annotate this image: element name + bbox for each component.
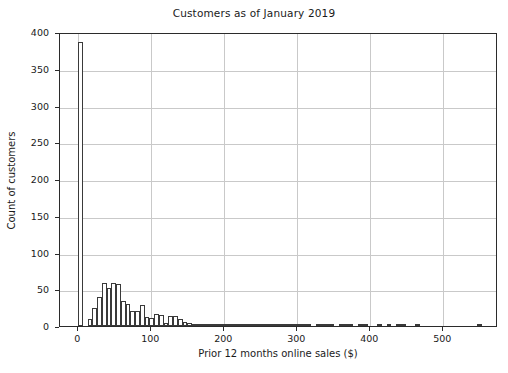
x-axis-tick-mark	[77, 327, 78, 331]
x-axis-tick-mark	[296, 327, 297, 331]
histogram-bar	[78, 42, 83, 326]
gridline-horizontal	[60, 255, 496, 256]
gridline-vertical	[370, 34, 371, 326]
y-axis-tick-label: 400	[0, 28, 49, 38]
y-axis-tick-label: 100	[0, 249, 49, 259]
histogram-bar	[363, 324, 368, 326]
gridline-vertical	[151, 34, 152, 326]
histogram-bar	[349, 324, 354, 326]
x-axis-tick-mark	[369, 327, 370, 331]
x-axis-tick-label: 200	[203, 334, 243, 344]
y-axis-tick-label: 250	[0, 138, 49, 148]
x-axis-tick-mark	[223, 327, 224, 331]
histogram-bar	[330, 324, 335, 326]
histogram-bar	[401, 324, 406, 326]
gridline-horizontal	[60, 181, 496, 182]
y-axis-tick-label: 150	[0, 212, 49, 222]
x-axis-label: Prior 12 months online sales ($)	[59, 348, 497, 359]
y-axis-tick-label: 50	[0, 285, 49, 295]
chart-figure: Customers as of January 2019 Count of cu…	[0, 0, 508, 373]
y-axis-tick-label: 350	[0, 65, 49, 75]
x-axis-tick-label: 400	[349, 334, 389, 344]
x-axis-tick-mark	[150, 327, 151, 331]
gridline-horizontal	[60, 71, 496, 72]
histogram-bar	[415, 324, 420, 326]
y-axis-tick-label: 0	[0, 322, 49, 332]
chart-title: Customers as of January 2019	[0, 7, 508, 19]
histogram-bar	[377, 324, 382, 326]
x-axis-tick-label: 500	[422, 334, 462, 344]
y-axis-tick-label: 300	[0, 102, 49, 112]
histogram-bar	[477, 324, 482, 326]
plot-area	[59, 33, 497, 327]
gridline-horizontal	[60, 291, 496, 292]
gridline-horizontal	[60, 218, 496, 219]
gridline-vertical	[297, 34, 298, 326]
gridline-vertical	[443, 34, 444, 326]
x-axis-tick-label: 300	[276, 334, 316, 344]
y-axis-tick-label: 200	[0, 175, 49, 185]
y-axis-tick-mark	[55, 327, 59, 328]
gridline-vertical	[224, 34, 225, 326]
gridline-horizontal	[60, 108, 496, 109]
x-axis-tick-label: 100	[130, 334, 170, 344]
x-axis-tick-label: 0	[57, 334, 97, 344]
histogram-bar	[387, 324, 392, 326]
gridline-horizontal	[60, 144, 496, 145]
x-axis-tick-mark	[442, 327, 443, 331]
histogram-bar	[306, 324, 311, 326]
